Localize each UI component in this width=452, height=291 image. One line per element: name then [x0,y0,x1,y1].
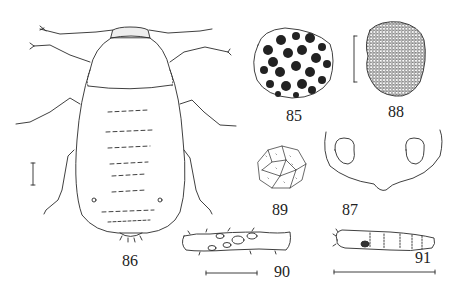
fig86-larva-illustration [16,26,236,242]
fig91-label: 91 [415,250,431,266]
plate-illustrations [0,0,452,291]
fig87-head-capsule [325,130,442,190]
fig89-label: 89 [272,202,288,218]
fig90-label: 90 [274,264,290,280]
fig86-label: 86 [122,253,138,269]
figure-plate: 85 88 89 87 86 90 91 [0,0,452,291]
fig88-scale-bar [354,36,357,82]
fig85-label: 85 [286,108,302,124]
fig85-cell-cluster [254,28,333,98]
fig91-segmented-body [333,229,435,251]
fig90-leg-segment [182,228,290,255]
fig89-polygon-pattern [258,146,306,188]
fig88-reticulate-structure [366,22,425,97]
fig86-scale-bar [31,163,35,185]
fig91-scale-bar [334,270,435,274]
fig87-label: 87 [342,202,358,218]
fig90-scale-bar [206,271,257,275]
fig88-label: 88 [388,104,404,120]
